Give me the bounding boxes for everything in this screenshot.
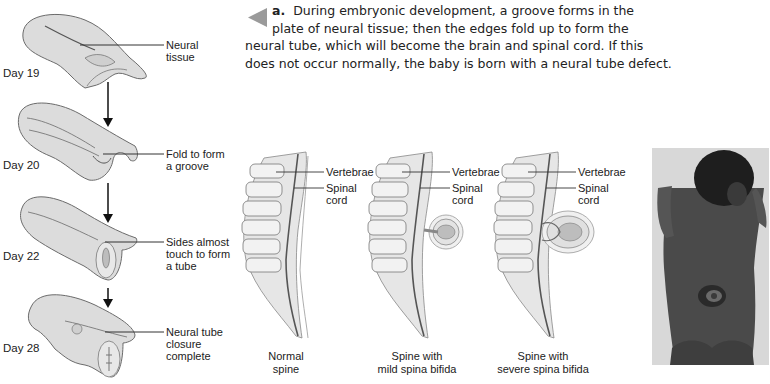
stage-label-day28: Neural tubeclosurecomplete [166,326,223,362]
day22-tube-forming-illustration [18,192,143,282]
day-label-19: Day 19 [3,67,39,79]
leader-line [105,331,165,333]
leader-line [103,153,165,155]
leader-line [528,170,578,190]
day-label-22: Day 22 [3,250,39,262]
stage-label-day22: Sides almosttouch to forma tube [166,236,230,272]
vertebrae-label: Vertebrae [578,166,626,178]
spine-severe-spina-bifida: Vertebrae Spinalcord Spine withsevere sp… [488,150,623,380]
caption: a. During embryonic development, a groov… [272,2,752,37]
spine-normal: Vertebrae Spinalcord Normalspine [236,150,371,380]
caption-line-3: neural tube, which will become the brain… [245,38,643,53]
caption-marker: a. [272,3,285,18]
caption-line-2: plate of neural tissue; then the edges f… [272,21,629,36]
spinal-cord-label: Spinalcord [452,182,483,206]
day-label-28: Day 28 [3,342,39,354]
caption-continued: neural tube, which will become the brain… [245,37,765,72]
leader-line [80,44,165,46]
stage-label-day20: Fold to forma groove [166,148,225,172]
caption-line-1: During embryonic development, a groove f… [293,3,634,18]
infant-photo [652,148,769,365]
leader-line [276,170,326,190]
day-label-20: Day 20 [3,159,39,171]
spine-caption-mild: Spine withmild spina bifida [362,350,472,375]
spine-mild-spina-bifida: Vertebrae Spinalcord Spine withmild spin… [362,150,497,380]
spinal-cord-label: Spinalcord [326,182,357,206]
spine-caption-severe: Spine withsevere spina bifida [488,350,598,375]
spinal-cord-label: Spinalcord [578,182,609,206]
stage-label-day19: Neuraltissue [166,39,198,63]
neural-tube-stages: Neuraltissue Day 19 Fold to forma groove… [0,0,240,384]
caption-line-4: does not occur normally, the baby is bor… [245,56,672,71]
infant-photo-rendering [652,148,769,365]
leader-line [105,241,165,243]
leader-line [402,170,452,190]
caption-marker-triangle-icon [248,8,268,28]
spine-caption-normal: Normalspine [246,350,326,375]
